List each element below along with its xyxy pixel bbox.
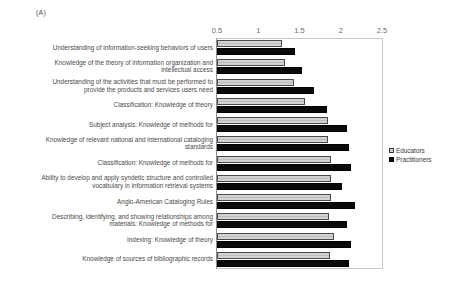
chart-figure: (A) 0.511.522.5 Understanding of informa… (0, 0, 452, 288)
category-label: Describing, identifying, and showing rel… (31, 213, 213, 228)
bar-practitioners (217, 106, 327, 113)
x-tick-label-4: 2.5 (377, 26, 387, 35)
chart-legend: EducatorsPractitioners (389, 146, 432, 164)
bar-educators (217, 194, 331, 201)
bar-practitioners (217, 125, 347, 132)
bar-educators (217, 156, 331, 163)
x-axis-tick-labels: 0.511.522.5 (0, 26, 452, 38)
category-label: Knowledge of sources of bibliographic re… (31, 256, 213, 264)
bar-educators (217, 98, 305, 105)
category-label: Understanding of the activities that mus… (31, 79, 213, 94)
chart-row: Ability to develop and apply syndetic st… (0, 173, 452, 192)
x-tick-label-0: 0.5 (212, 26, 222, 35)
bar-educators (217, 117, 328, 124)
bar-practitioners (217, 221, 347, 228)
bar-educators (217, 40, 282, 47)
bar-educators (217, 59, 285, 66)
x-tick-label-2: 1.5 (294, 26, 304, 35)
legend-label: Practitioners (396, 155, 432, 164)
bar-practitioners (217, 241, 351, 248)
bar-practitioners (217, 183, 342, 190)
bar-practitioners (217, 164, 351, 171)
category-label: Subject analysis: Knowledge of methods f… (31, 121, 213, 129)
chart-row: Knowledge of the theory of information o… (0, 57, 452, 76)
legend-label: Educators (396, 146, 425, 155)
bar-practitioners (217, 144, 349, 151)
bar-practitioners (217, 48, 295, 55)
category-label: Knowledge of relevant national and inter… (31, 136, 213, 151)
category-label: Anglo-American Cataloging Rules (31, 198, 213, 206)
chart-row: Knowledge of relevant national and inter… (0, 134, 452, 153)
legend-swatch-icon (389, 157, 394, 162)
bar-practitioners (217, 67, 302, 74)
legend-entry-educators: Educators (389, 146, 432, 155)
chart-row: Classification: Knowledge of methods for (0, 154, 452, 173)
bar-educators (217, 175, 331, 182)
chart-row: Knowledge of sources of bibliographic re… (0, 250, 452, 269)
bar-educators (217, 79, 294, 86)
category-label: Indexing: Knowledge of theory (31, 236, 213, 244)
legend-entry-practitioners: Practitioners (389, 155, 432, 164)
bar-educators (217, 233, 334, 240)
category-label: Understanding of information-seeking beh… (31, 44, 213, 52)
legend-swatch-icon (389, 148, 394, 153)
bar-educators (217, 252, 330, 259)
chart-row: Understanding of information-seeking beh… (0, 38, 452, 57)
bar-practitioners (217, 202, 355, 209)
x-tick-label-3: 2 (339, 26, 343, 35)
chart-row: Understanding of the activities that mus… (0, 77, 452, 96)
bar-educators (217, 136, 328, 143)
chart-row: Describing, identifying, and showing rel… (0, 211, 452, 230)
category-label: Classification: Knowledge of methods for (31, 159, 213, 167)
panel-tag: (A) (36, 9, 46, 16)
x-tick-label-1: 1 (256, 26, 260, 35)
chart-row: Classification: Knowledge of theory (0, 96, 452, 115)
bar-practitioners (217, 87, 314, 94)
bar-rows: Understanding of information-seeking beh… (0, 38, 452, 269)
chart-row: Subject analysis: Knowledge of methods f… (0, 115, 452, 134)
bar-educators (217, 213, 329, 220)
chart-row: Anglo-American Cataloging Rules (0, 192, 452, 211)
bar-practitioners (217, 260, 349, 267)
category-label: Knowledge of the theory of information o… (31, 59, 213, 74)
category-label: Ability to develop and apply syndetic st… (31, 175, 213, 190)
chart-row: Indexing: Knowledge of theory (0, 231, 452, 250)
category-label: Classification: Knowledge of theory (31, 102, 213, 110)
